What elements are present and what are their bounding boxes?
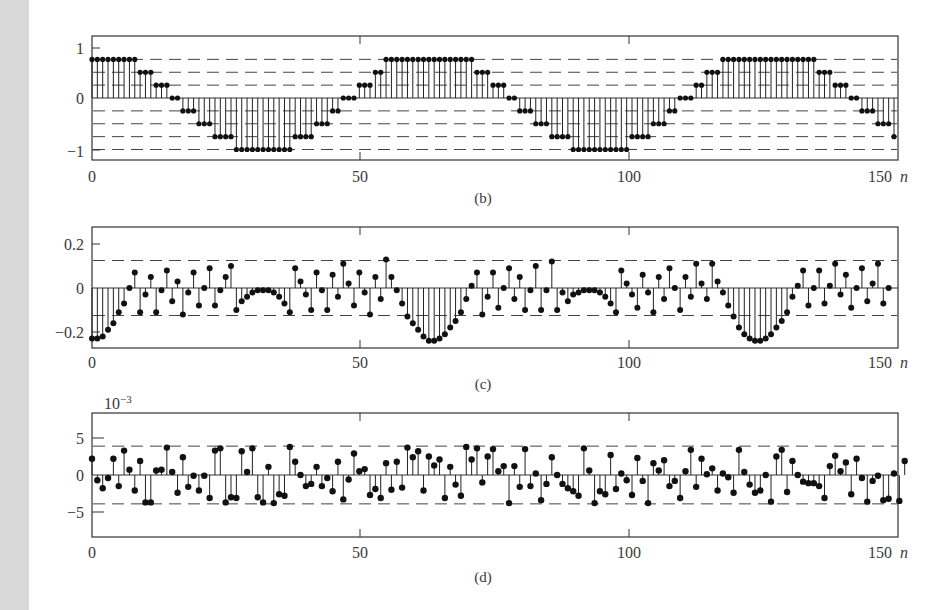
panel-d-stems [89, 444, 908, 507]
panel-d-ytick-neg5: −5 [67, 504, 84, 521]
panel-b-xtick-50: 50 [352, 168, 368, 185]
panel-b-ytick-0: 0 [76, 90, 84, 107]
panel-b-xlabel: n [900, 168, 908, 185]
panel-c-ytick-0: 0 [76, 280, 84, 297]
panel-d-scale-label: 10−3 [104, 393, 132, 412]
panel-b-ytick-1: 1 [76, 40, 84, 57]
panel-c-ytick-0.2: 0.2 [64, 236, 84, 253]
panel-d-caption: (d) [474, 569, 492, 586]
panel-b-stems [89, 57, 898, 152]
panel-b-caption: (b) [474, 190, 492, 207]
panel-d-xtick-100: 100 [617, 544, 641, 561]
panel-d-ytick-0: 0 [76, 467, 84, 484]
figure: 1 0 −1 0 50 100 150 n (b) 0.2 0 −0.2 0 5… [0, 0, 938, 610]
panel-c-stem-plot: 0.2 0 −0.2 0 50 100 150 n (c) [55, 227, 908, 393]
panel-d-xlabel: n [900, 544, 908, 561]
panel-c-stems [89, 256, 898, 343]
panel-c-xtick-50: 50 [352, 354, 368, 371]
panel-d-xtick-50: 50 [352, 544, 368, 561]
panel-c-xlabel: n [900, 354, 908, 371]
panel-b-xtick-0: 0 [88, 168, 96, 185]
panel-c-xtick-150: 150 [868, 354, 892, 371]
panel-c-ytick-neg0.2: −0.2 [55, 324, 84, 341]
panel-c-xtick-0: 0 [88, 354, 96, 371]
panel-d-ytick-5: 5 [76, 430, 84, 447]
panel-c-caption: (c) [475, 376, 492, 393]
panel-b-stem-plot: 1 0 −1 0 50 100 150 n (b) [67, 36, 908, 207]
panel-b-xtick-150: 150 [868, 168, 892, 185]
panel-d-stem-plot: 10−3 5 0 −5 0 50 100 150 n (d) [67, 393, 908, 586]
panel-b-xtick-100: 100 [617, 168, 641, 185]
panel-c-xtick-100: 100 [617, 354, 641, 371]
panel-d-xtick-150: 150 [868, 544, 892, 561]
panel-b-ytick-neg1: −1 [67, 143, 84, 160]
panel-d-xtick-0: 0 [88, 544, 96, 561]
